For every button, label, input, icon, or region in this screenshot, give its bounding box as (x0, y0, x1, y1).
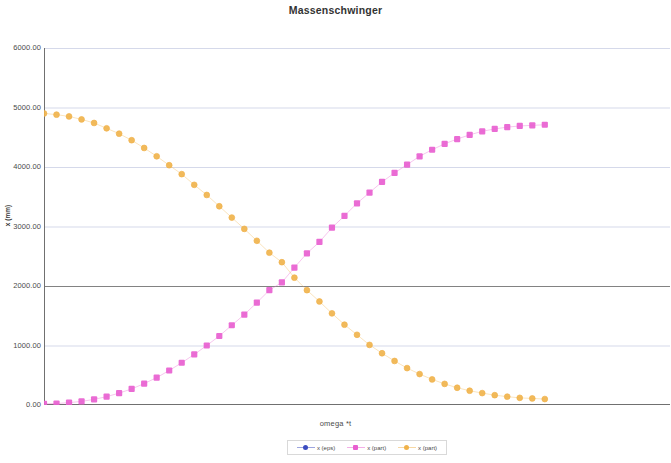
data-point (291, 264, 297, 270)
legend-entry[interactable]: x (eps) (297, 444, 335, 451)
y-axis-tick-label: 6000.00 (1, 43, 41, 52)
data-point (542, 396, 548, 402)
data-point (154, 153, 160, 159)
data-point (442, 141, 448, 147)
data-point (479, 128, 485, 134)
data-point (191, 351, 197, 357)
data-point (342, 322, 348, 328)
data-point (116, 390, 122, 396)
legend-swatch-icon (347, 444, 365, 451)
data-point (79, 117, 85, 123)
data-point (279, 259, 285, 265)
y-axis-tick-label: 2000.00 (1, 281, 41, 290)
data-point (492, 126, 498, 132)
data-point (129, 386, 135, 392)
data-point (317, 299, 323, 305)
data-point (492, 392, 498, 398)
data-point (141, 145, 147, 151)
data-point (154, 375, 160, 381)
data-point (417, 153, 423, 159)
legend-entry[interactable]: x (part) (398, 444, 437, 451)
data-point (191, 182, 197, 188)
data-point (442, 381, 448, 387)
data-point (404, 365, 410, 371)
data-point (304, 287, 310, 293)
data-point (216, 333, 222, 339)
y-axis-tick-label: 5000.00 (1, 103, 41, 112)
data-point (529, 122, 535, 128)
data-point (53, 400, 59, 405)
data-point (529, 396, 535, 402)
data-point (254, 238, 260, 244)
data-point (467, 132, 473, 138)
chart-plot-svg (44, 48, 670, 405)
data-point (429, 377, 435, 383)
data-point (366, 189, 372, 195)
data-point (341, 213, 347, 219)
data-point (54, 112, 60, 118)
data-point (417, 371, 423, 377)
data-point (78, 398, 84, 404)
plot-area (44, 48, 670, 405)
data-point (354, 332, 360, 338)
data-point (517, 123, 523, 129)
data-point (241, 226, 247, 232)
data-point (379, 350, 385, 356)
data-point (141, 380, 147, 386)
data-point (367, 342, 373, 348)
data-point (266, 250, 272, 256)
data-point (91, 120, 97, 126)
data-point (66, 400, 72, 405)
data-point (379, 179, 385, 185)
data-point (129, 137, 135, 143)
data-point (166, 367, 172, 373)
legend-label: x (part) (418, 445, 437, 451)
legend-entry[interactable]: x (part) (347, 444, 386, 451)
data-point (292, 275, 298, 281)
chart-legend: x (eps)x (part)x (part) (287, 440, 447, 455)
chart-container: Massenschwinger 6000.005000.004000.00300… (0, 0, 671, 463)
y-axis-tick-label: 4000.00 (1, 162, 41, 171)
data-point (429, 147, 435, 153)
data-point (392, 358, 398, 364)
data-point (116, 131, 122, 137)
legend-label: x (part) (367, 445, 386, 451)
data-point (91, 396, 97, 402)
legend-label: x (eps) (317, 445, 335, 451)
data-point (504, 394, 510, 400)
data-point (454, 136, 460, 142)
data-point (104, 125, 110, 131)
data-point (44, 401, 47, 405)
legend-swatch-icon (398, 444, 416, 451)
data-point (354, 200, 360, 206)
data-point (254, 300, 260, 306)
data-point (241, 311, 247, 317)
data-point (216, 203, 222, 209)
data-point (467, 388, 473, 394)
data-point (542, 122, 548, 128)
data-point (316, 239, 322, 245)
data-point (454, 385, 460, 391)
data-point (204, 192, 210, 198)
data-point (479, 390, 485, 396)
data-point (304, 250, 310, 256)
data-point (44, 111, 47, 117)
data-point (104, 394, 110, 400)
y-axis-tick-label: 1000.00 (1, 341, 41, 350)
data-point (229, 322, 235, 328)
y-axis-tick-label: 0.00 (1, 400, 41, 409)
data-point (66, 114, 72, 120)
data-point (204, 342, 210, 348)
data-point (517, 395, 523, 401)
data-point (329, 225, 335, 231)
chart-title: Massenschwinger (0, 4, 671, 16)
data-point (229, 215, 235, 221)
data-point (404, 162, 410, 168)
x-axis-title: omega *t (0, 419, 671, 428)
data-point (179, 171, 185, 177)
data-point (329, 310, 335, 316)
y-axis-title: x (mm) (4, 196, 11, 236)
data-point (179, 360, 185, 366)
data-point (504, 124, 510, 130)
data-point (266, 287, 272, 293)
